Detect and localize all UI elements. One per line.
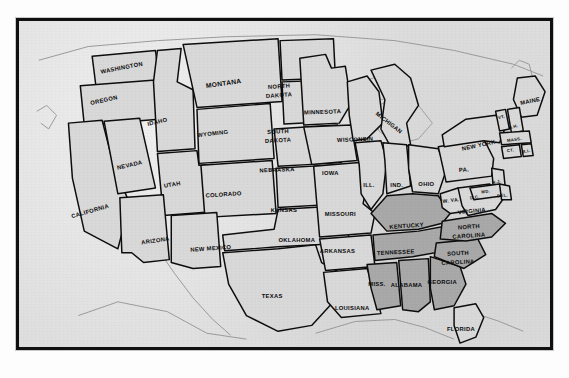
- state-arizona: [120, 195, 169, 263]
- us-map-svg[interactable]: WASHINGTONOREGONIDAHOMONTANANORTHDAKOTAS…: [19, 21, 550, 347]
- state-florida: [454, 304, 484, 343]
- state-label-wisconsin: WISCONSIN: [337, 136, 373, 143]
- state-texas: [223, 245, 340, 331]
- state-label-texas: TEXAS: [262, 293, 283, 299]
- state-label-oklahoma: OKLAHOMA: [279, 237, 316, 243]
- map-frame-border: WASHINGTONOREGONIDAHOMONTANANORTHDAKOTAS…: [16, 18, 553, 350]
- state-label-louisiana: LOUISIANA: [335, 305, 370, 311]
- state-new-mexico: [171, 212, 220, 268]
- state-label-ct: CT.: [506, 147, 514, 153]
- state-label-arkansas: ARKANSAS: [320, 248, 355, 254]
- state-label-ill: ILL.: [363, 183, 375, 189]
- state-label-missouri: MISSOURI: [325, 211, 356, 217]
- state-label-miss: MISS.: [368, 281, 385, 287]
- state-label-iowa: IOWA: [322, 170, 339, 176]
- state-label-nebraska: NEBRASKA: [259, 166, 295, 173]
- state-label-alabama: ALABAMA: [391, 282, 423, 288]
- state-label-south: SOUTH: [267, 128, 289, 135]
- map-figure: WASHINGTONOREGONIDAHOMONTANANORTHDAKOTAS…: [0, 0, 569, 378]
- state-label-ind: IND.: [390, 183, 403, 189]
- map-canvas[interactable]: WASHINGTONOREGONIDAHOMONTANANORTHDAKOTAS…: [19, 21, 550, 347]
- state-iowa: [304, 125, 357, 164]
- state-label-florida: FLORIDA: [447, 326, 475, 332]
- state-label-south: SOUTH: [447, 250, 469, 257]
- state-new-york: [442, 115, 505, 146]
- state-label-kansas: KANSAS: [271, 207, 297, 213]
- state-label-ohio: OHIO: [418, 181, 434, 187]
- state-label-pa: PA.: [459, 166, 470, 173]
- state-label-georgia: GEORGIA: [427, 279, 457, 285]
